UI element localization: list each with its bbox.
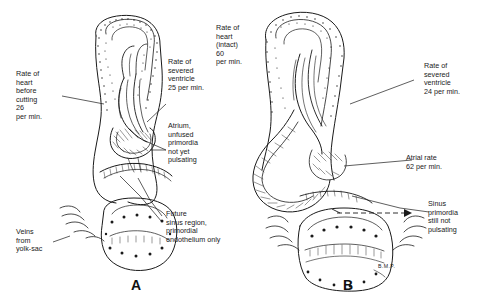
label-rate-of-heart-before-cutting: Rate of heart before cutting 26 per min. bbox=[16, 69, 42, 121]
embryonic-heart-figure: Rate of heart before cutting 26 per min.… bbox=[0, 0, 504, 297]
label-atrial-rate: Atrial rate 62 per min. bbox=[406, 153, 442, 171]
label-rate-of-heart-intact: Rate of heart (intact) 60 per min. bbox=[216, 23, 242, 66]
label-bmp: B.M.P. bbox=[378, 263, 395, 269]
panel-letter-b: B bbox=[343, 277, 353, 293]
panel-letter-a: A bbox=[131, 277, 141, 293]
